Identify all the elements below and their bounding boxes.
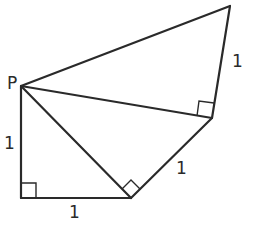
triangle-spiral-figure — [0, 0, 257, 229]
segment-pd — [21, 6, 230, 86]
side-bc-label: 1 — [176, 160, 187, 177]
side-cd-label: 1 — [232, 53, 243, 70]
segment-pb — [21, 86, 131, 198]
right-angle-marker-a — [21, 183, 36, 198]
diagram-canvas: P 1 1 1 1 — [0, 0, 257, 229]
point-p-label: P — [7, 75, 17, 92]
side-pa-label: 1 — [4, 135, 15, 152]
side-ab-label: 1 — [69, 204, 80, 221]
segment-bc — [131, 118, 212, 198]
right-angle-marker-c — [197, 101, 214, 116]
segment-pc — [21, 86, 212, 118]
right-angle-marker-b — [122, 180, 140, 189]
segment-cd — [212, 6, 230, 118]
